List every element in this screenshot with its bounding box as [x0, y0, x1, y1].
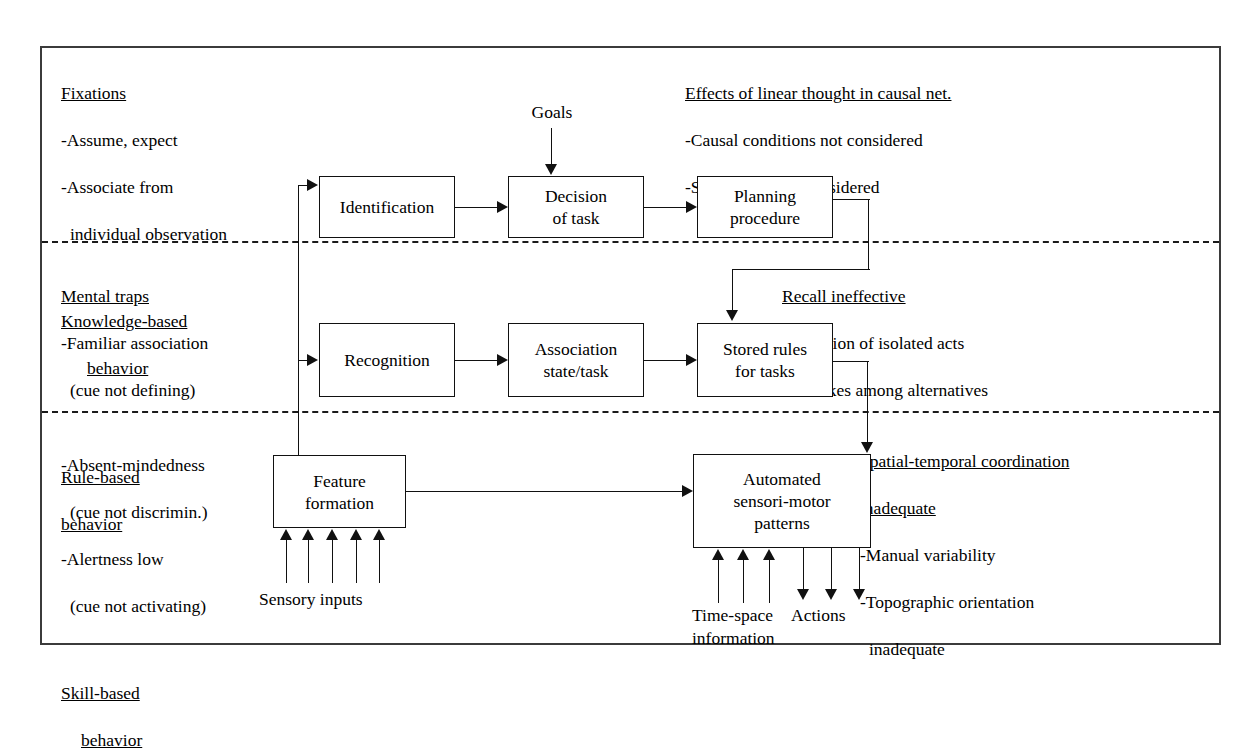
- sensory-input-arrow-4-icon: [350, 529, 362, 540]
- sensory-input-arrow-2-icon: [302, 529, 314, 540]
- connector-planning-out-right: [833, 199, 870, 200]
- box-association-state-task[interactable]: Association state/task: [508, 323, 644, 397]
- arrowhead-recognition-icon: [307, 354, 318, 366]
- box-feature-formation[interactable]: Feature formation: [273, 455, 406, 528]
- skill-level-label-line2: behavior: [61, 729, 311, 752]
- sensory-input-arrow-5-icon: [373, 529, 385, 540]
- actions-stem-3: [859, 548, 860, 591]
- arrowhead-planning-icon: [686, 201, 697, 213]
- box-decision-of-task[interactable]: Decision of task: [508, 176, 644, 238]
- actions-stem-1: [803, 548, 804, 591]
- time-space-stem-2: [743, 560, 744, 603]
- sensory-input-stem-5: [379, 540, 380, 583]
- connector-recognition-to-association: [455, 360, 499, 361]
- goals-label: Goals: [497, 101, 607, 124]
- sensory-input-stem-4: [356, 540, 357, 583]
- skill-left-spacer: [61, 642, 311, 659]
- box-stored-rules[interactable]: Stored rules for tasks: [697, 323, 833, 397]
- rule-left-heading: Mental traps: [61, 285, 311, 309]
- sensory-input-arrow-3-icon: [326, 529, 338, 540]
- arrowhead-identification-icon: [307, 179, 318, 191]
- box-planning-procedure[interactable]: Planning procedure: [697, 176, 833, 238]
- skill-right-heading-line1: Spatial-temporal coordination: [860, 450, 1230, 474]
- time-space-arrow-1-icon: [712, 549, 724, 560]
- skill-right-bullet-1: -Manual variability: [860, 544, 1230, 568]
- actions-arrow-3-icon: [853, 589, 865, 600]
- knowledge-right-heading: Effects of linear thought in causal net.: [685, 82, 1205, 106]
- arrowhead-automated-top-icon: [861, 442, 873, 453]
- rule-right-bullet-2: -Mistakes among alternatives: [782, 379, 1222, 403]
- time-space-stem-1: [718, 560, 719, 603]
- sensory-input-stem-3: [332, 540, 333, 583]
- connector-association-to-stored-rules: [644, 360, 688, 361]
- time-space-arrow-3-icon: [763, 549, 775, 560]
- connector-planning-down: [868, 199, 869, 270]
- arrowhead-association-icon: [497, 354, 508, 366]
- connector-decision-to-planning: [644, 207, 688, 208]
- rule-left-bullet-1: -Familiar association: [61, 332, 311, 356]
- connector-stored-rules-down: [867, 361, 868, 445]
- time-space-arrow-2-icon: [737, 549, 749, 560]
- skill-left-bullet-3: -Alertness low: [61, 548, 311, 572]
- arrowhead-stored-rules-top-icon: [726, 310, 738, 321]
- diagram-frame: Fixations -Assume, expect -Associate fro…: [40, 46, 1221, 645]
- knowledge-left-bullet-3: individual observation: [61, 223, 311, 247]
- goals-arrowhead-icon: [545, 164, 557, 175]
- rule-right-bullet-1: -Omission of isolated acts: [782, 332, 1222, 356]
- box-recognition[interactable]: Recognition: [319, 323, 455, 397]
- arrowhead-decision-icon: [497, 201, 508, 213]
- actions-label: Actions: [791, 604, 911, 627]
- arrowhead-stored-rules-left-icon: [686, 354, 697, 366]
- knowledge-right-bullet-1: -Causal conditions not considered: [685, 129, 1205, 153]
- skill-right-bullet-2: -Topographic orientation: [860, 591, 1230, 615]
- connector-stored-rules-out-right: [833, 361, 869, 362]
- knowledge-left-bullet-1: -Assume, expect: [61, 129, 311, 153]
- connector-identification-to-decision: [455, 207, 499, 208]
- box-automated-patterns[interactable]: Automated sensori-motor patterns: [693, 454, 871, 548]
- connector-into-stored-rules: [732, 269, 733, 313]
- sensory-inputs-label: Sensory inputs: [259, 588, 479, 611]
- knowledge-left-bullet-2: -Associate from: [61, 176, 311, 200]
- sensory-input-stem-1: [286, 540, 287, 583]
- box-identification[interactable]: Identification: [319, 176, 455, 238]
- connector-feature-to-automated: [406, 491, 684, 492]
- actions-arrow-1-icon: [797, 589, 809, 600]
- rule-left-bullet-2: (cue not defining): [61, 379, 311, 403]
- actions-stem-2: [831, 548, 832, 591]
- rule-right-heading: Recall ineffective: [782, 285, 1222, 309]
- connector-planning-back-left: [732, 269, 870, 270]
- time-space-stem-3: [769, 560, 770, 603]
- connector-feature-riser: [298, 185, 299, 455]
- actions-arrow-2-icon: [825, 589, 837, 600]
- sensory-input-stem-2: [308, 540, 309, 583]
- skill-right-text: Spatial-temporal coordination inadequate…: [860, 426, 1230, 685]
- skill-level-label-line1: Skill-based: [61, 682, 311, 706]
- knowledge-left-heading: Fixations: [61, 82, 311, 106]
- goals-connector-line: [551, 128, 552, 166]
- arrowhead-automated-left-icon: [682, 485, 693, 497]
- rule-right-text: Recall ineffective -Omission of isolated…: [782, 261, 1222, 426]
- sensory-input-arrow-1-icon: [280, 529, 292, 540]
- skill-right-heading-line2: inadequate: [860, 497, 1230, 521]
- skill-right-bullet-3: inadequate: [860, 638, 1230, 662]
